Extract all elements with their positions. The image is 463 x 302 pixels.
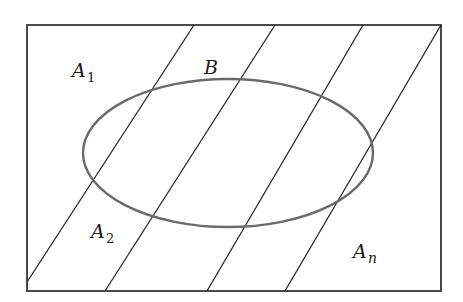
label-an-main: A — [351, 240, 367, 262]
label-an: A n — [351, 240, 377, 266]
label-an-subscript: n — [368, 250, 377, 266]
label-a1-main: A — [70, 59, 86, 81]
label-a1-subscript: 1 — [87, 70, 95, 85]
label-b: B — [203, 56, 218, 78]
partition-diagram: A 1 B A 2 A n — [0, 0, 463, 302]
label-a1: A 1 — [70, 59, 95, 85]
label-a2-main: A — [89, 220, 105, 242]
label-a2-subscript: 2 — [106, 231, 114, 246]
label-b-main: B — [203, 56, 218, 78]
sample-space-frame — [27, 25, 441, 291]
event-b-ellipse — [83, 79, 373, 227]
label-a2: A 2 — [89, 220, 114, 246]
partition-line-3 — [207, 25, 363, 291]
partition-line-2 — [105, 25, 275, 291]
partition-lines — [27, 25, 441, 291]
